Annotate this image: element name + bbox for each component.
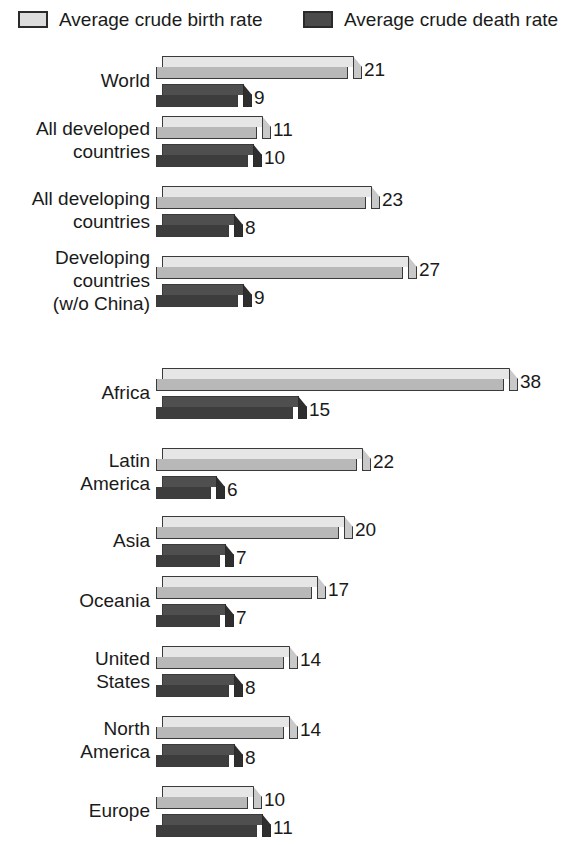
bar-face-front: [156, 459, 357, 471]
bar-face-top: [162, 256, 409, 267]
chart-legend: Average crude birth rate Average crude d…: [0, 10, 586, 44]
bar-value-death-rate: 11: [273, 818, 293, 837]
bar-value-birth-rate: 21: [364, 60, 385, 79]
bar-birth-rate: [162, 186, 372, 208]
bar-face-side: [317, 576, 326, 599]
bar-death-rate: [162, 144, 254, 166]
bar-face-side: [298, 396, 307, 419]
bar-face-side: [289, 646, 298, 669]
bar-face-top: [162, 448, 363, 459]
bar-face-front: [156, 225, 229, 237]
bar-death-rate: [162, 214, 235, 236]
bar-value-death-rate: 15: [309, 400, 330, 419]
bar-value-death-rate: 9: [254, 288, 265, 307]
bar-face-side: [225, 604, 234, 627]
bar-face-top: [162, 144, 254, 155]
bar-value-death-rate: 8: [245, 748, 256, 767]
legend-item-death-rate: Average crude death rate: [303, 10, 558, 29]
bar-face-top: [162, 604, 226, 615]
bar-birth-rate: [162, 368, 510, 390]
bar-face-top: [162, 544, 226, 555]
bar-face-front: [156, 67, 348, 79]
bar-birth-rate: [162, 56, 354, 78]
bar-value-death-rate: 7: [236, 548, 247, 567]
bar-face-top: [162, 476, 217, 487]
legend-item-birth-rate: Average crude birth rate: [18, 10, 263, 29]
bar-face-top: [162, 744, 235, 755]
bar-value-birth-rate: 10: [264, 790, 285, 809]
bar-face-top: [162, 116, 263, 127]
bar-face-front: [156, 657, 284, 669]
bar-birth-rate: [162, 576, 318, 598]
bar-face-side: [253, 786, 262, 809]
bar-face-front: [156, 615, 220, 627]
bar-face-front: [156, 587, 312, 599]
bar-death-rate: [162, 476, 217, 498]
category-label: Latin America: [0, 449, 150, 495]
bar-value-birth-rate: 11: [273, 120, 293, 139]
bar-face-side: [225, 544, 234, 567]
bar-face-side: [262, 116, 271, 139]
bar-death-rate: [162, 396, 299, 418]
bar-face-side: [243, 284, 252, 307]
bar-face-front: [156, 127, 257, 139]
bar-death-rate: [162, 604, 226, 626]
chart-root: Average crude birth rate Average crude d…: [0, 0, 586, 845]
bar-value-birth-rate: 27: [419, 260, 440, 279]
bar-face-side: [253, 144, 262, 167]
bar-face-front: [156, 267, 403, 279]
category-label: North America: [0, 717, 150, 763]
bar-birth-rate: [162, 448, 363, 470]
category-label: Europe: [0, 799, 150, 822]
bar-face-side: [344, 516, 353, 539]
bar-death-rate: [162, 674, 235, 696]
bar-death-rate: [162, 84, 244, 106]
bar-face-side: [353, 56, 362, 79]
bar-face-front: [156, 797, 248, 809]
legend-swatch-birth-rate: [18, 11, 48, 28]
bar-face-front: [156, 295, 238, 307]
bar-face-top: [162, 84, 244, 95]
bar-value-birth-rate: 17: [328, 580, 349, 599]
bar-face-front: [156, 527, 339, 539]
bar-face-front: [156, 685, 229, 697]
bar-face-side: [243, 84, 252, 107]
bar-face-top: [162, 214, 235, 225]
bar-face-front: [156, 487, 211, 499]
bar-face-top: [162, 814, 263, 825]
bar-value-death-rate: 6: [227, 480, 238, 499]
category-label: Asia: [0, 529, 150, 552]
bar-face-top: [162, 186, 372, 197]
bar-face-front: [156, 155, 248, 167]
bar-face-top: [162, 284, 244, 295]
bar-face-top: [162, 56, 354, 67]
bar-face-front: [156, 197, 366, 209]
bar-value-birth-rate: 22: [373, 452, 394, 471]
bar-birth-rate: [162, 116, 263, 138]
bar-birth-rate: [162, 516, 345, 538]
category-label: Oceania: [0, 589, 150, 612]
bar-face-top: [162, 576, 318, 587]
bar-face-top: [162, 646, 290, 657]
legend-label-birth-rate: Average crude birth rate: [59, 10, 263, 29]
bar-face-top: [162, 516, 345, 527]
chart-plot-area: World219All developed countries1110All d…: [0, 48, 586, 845]
bar-face-side: [509, 368, 518, 391]
bar-face-front: [156, 825, 257, 837]
bar-face-side: [234, 744, 243, 767]
bar-face-front: [156, 379, 504, 391]
bar-face-front: [156, 95, 238, 107]
bar-face-side: [408, 256, 417, 279]
bar-value-death-rate: 8: [245, 218, 256, 237]
bar-value-birth-rate: 20: [355, 520, 376, 539]
bar-birth-rate: [162, 786, 254, 808]
legend-label-death-rate: Average crude death rate: [344, 10, 558, 29]
bar-value-death-rate: 10: [264, 148, 285, 167]
bar-face-top: [162, 368, 510, 379]
category-label: World: [0, 69, 150, 92]
category-label: All developing countries: [0, 187, 150, 233]
bar-face-front: [156, 755, 229, 767]
bar-face-side: [216, 476, 225, 499]
bar-value-birth-rate: 38: [520, 372, 541, 391]
category-label: United States: [0, 647, 150, 693]
